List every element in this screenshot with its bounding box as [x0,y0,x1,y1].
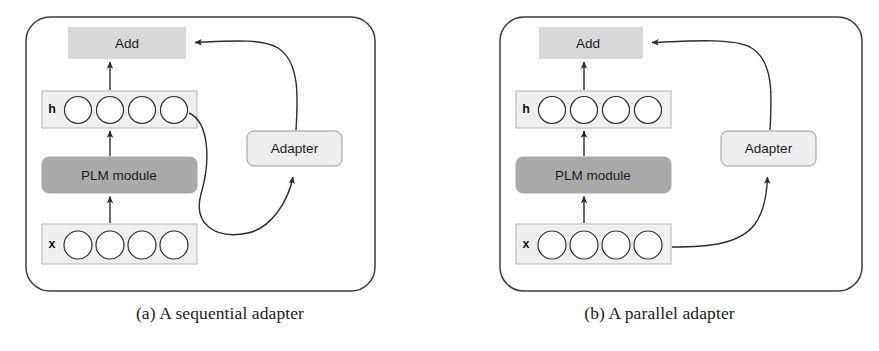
add-label: Add [115,36,139,51]
h-unit [97,97,124,124]
panel-a-diagram: Add h PLM module x [0,0,440,300]
plm-module-a: PLM module [42,157,197,193]
x-row-b: x [516,224,671,264]
x-unit [602,231,630,259]
h-unit [571,97,598,124]
x-row-label: x [523,237,530,251]
panel-a-caption: (a) A sequential adapter [0,303,440,324]
x-row-a: x [42,224,197,264]
edge-adapter-to-add [195,41,297,130]
x-unit [64,231,92,259]
h-row-label: h [48,102,56,116]
h-unit [635,97,662,124]
adapter-block-a: Adapter [247,131,342,166]
plm-module-label: PLM module [555,168,631,183]
adapter-figure: Add h PLM module x [0,0,879,351]
x-unit [128,231,156,259]
h-unit [65,97,92,124]
plm-module-b: PLM module [516,157,671,193]
h-row-a: h [42,91,197,128]
panel-parallel-adapter: Add h PLM module x [440,0,879,351]
panel-b-caption: (b) A parallel adapter [440,303,879,324]
plm-module-label: PLM module [81,168,157,183]
x-unit [634,231,662,259]
x-unit [570,231,598,259]
x-unit [96,231,124,259]
h-unit [161,97,188,124]
adapter-block-b: Adapter [721,131,816,166]
x-unit [538,231,566,259]
x-unit [160,231,188,259]
panel-b-diagram: Add h PLM module x [440,0,879,300]
add-label: Add [576,36,600,51]
h-unit [603,97,630,124]
add-block-a: Add [68,27,186,59]
adapter-label: Adapter [271,141,319,156]
edge-x-to-adapter [672,177,768,247]
panel-sequential-adapter: Add h PLM module x [0,0,440,351]
h-row-b: h [516,91,671,128]
h-row-label: h [522,102,530,116]
adapter-label: Adapter [745,141,793,156]
add-block-b: Add [539,27,643,59]
h-unit [539,97,566,124]
x-row-label: x [49,237,56,251]
h-unit [129,97,156,124]
